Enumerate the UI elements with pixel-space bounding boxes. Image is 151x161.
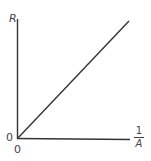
chart-plot-area bbox=[0, 0, 151, 161]
y-origin-tick-label: 0 bbox=[6, 132, 13, 143]
x-axis-label-numerator: 1 bbox=[134, 126, 144, 138]
x-axis-label: 1 A bbox=[134, 126, 144, 149]
x-axis bbox=[17, 139, 130, 140]
data-line bbox=[18, 21, 130, 139]
x-axis-label-denominator: A bbox=[134, 138, 144, 149]
x-origin-tick-label: 0 bbox=[14, 144, 21, 155]
y-axis-label: R bbox=[9, 13, 17, 24]
